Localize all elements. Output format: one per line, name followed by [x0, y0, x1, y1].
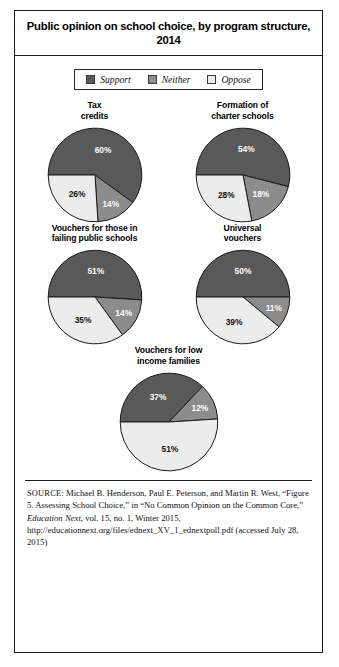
legend-box: Support Neither Oppose [74, 69, 262, 90]
pie-chart-charter-schools: Formation of charter schools 54%18%28% [169, 100, 317, 222]
pie-title-failing-school-vouchers: Vouchers for those in failing public sch… [52, 223, 138, 244]
pie-value-label-neither: 14% [102, 198, 119, 208]
pie-chart-low-income-vouchers: Vouchers for low income families 37%12%5… [95, 345, 243, 471]
source-note: SOURCE: Michael B. Henderson, Paul E. Pe… [15, 481, 322, 549]
pie-svg: 60%14%26% [47, 127, 143, 223]
pie-title-universal-vouchers: Universal vouchers [224, 223, 262, 244]
charts-area: Tax credits 60%14%26% Formation of chart… [15, 100, 322, 471]
pie-value-label-neither: 12% [191, 402, 208, 412]
pie-chart-failing-school-vouchers: Vouchers for those in failing public sch… [21, 223, 169, 345]
legend-swatch-support [86, 75, 95, 84]
pie-value-label-oppose: 51% [161, 444, 178, 454]
pie-svg: 51%14%35% [47, 249, 143, 345]
legend-swatch-oppose [207, 75, 216, 84]
pie-chart-tax-credits: Tax credits 60%14%26% [21, 100, 169, 222]
pie-holder-4: 37%12%51% [119, 372, 219, 472]
pie-title-charter-schools: Formation of charter schools [211, 100, 274, 121]
legend-item-oppose: Oppose [207, 74, 250, 85]
chart-row-3: Vouchers for low income families 37%12%5… [19, 345, 318, 471]
pie-value-label-support: 37% [149, 391, 166, 401]
pie-value-label-neither: 14% [115, 308, 132, 318]
pie-chart-universal-vouchers: Universal vouchers 50%11%39% [169, 223, 317, 345]
legend-label-neither: Neither [162, 74, 191, 85]
pie-title-tax-credits: Tax credits [81, 100, 108, 121]
pie-holder-3: 50%11%39% [195, 249, 291, 345]
source-text-1: Michael B. Henderson, Paul E. Peterson, … [27, 488, 309, 511]
pie-value-label-support: 54% [237, 144, 254, 154]
pie-value-label-support: 51% [87, 266, 104, 276]
pie-value-label-oppose: 28% [217, 190, 234, 200]
pie-svg: 37%12%51% [119, 372, 219, 472]
pie-value-label-neither: 18% [252, 189, 269, 199]
figure-title: Public opinion on school choice, by prog… [15, 20, 322, 47]
legend-label-oppose: Oppose [221, 74, 250, 85]
pie-value-label-support: 50% [234, 266, 251, 276]
pie-title-low-income-vouchers: Vouchers for low income families [135, 345, 202, 366]
chart-row-1: Tax credits 60%14%26% Formation of chart… [19, 100, 318, 222]
legend-label-support: Support [100, 74, 130, 85]
pie-holder-1: 54%18%28% [195, 127, 291, 223]
source-publication: Education Next [27, 513, 81, 523]
pie-value-label-support: 60% [94, 145, 111, 155]
pie-svg: 50%11%39% [195, 249, 291, 345]
legend-item-neither: Neither [148, 74, 191, 85]
pie-value-label-oppose: 39% [225, 317, 242, 327]
pie-value-label-oppose: 26% [68, 189, 85, 199]
legend: Support Neither Oppose [15, 69, 322, 90]
legend-item-support: Support [86, 74, 130, 85]
pie-svg: 54%18%28% [195, 127, 291, 223]
title-divider [15, 55, 322, 56]
legend-swatch-neither [148, 75, 157, 84]
figure-frame: Public opinion on school choice, by prog… [14, 10, 323, 653]
pie-value-label-neither: 11% [265, 303, 282, 313]
chart-row-2: Vouchers for those in failing public sch… [19, 223, 318, 345]
pie-holder-0: 60%14%26% [47, 127, 143, 223]
pie-value-label-oppose: 35% [74, 315, 91, 325]
pie-holder-2: 51%14%35% [47, 249, 143, 345]
source-prefix: SOURCE: [27, 489, 64, 498]
